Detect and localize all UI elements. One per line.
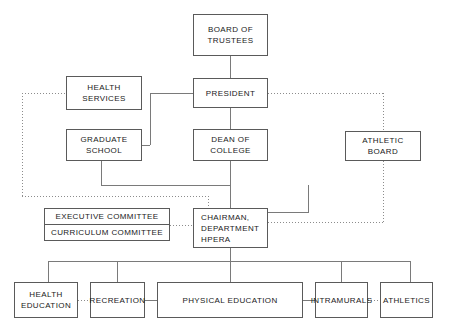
node-dean-of-college-line1: DEAN OF: [211, 134, 249, 145]
connector-drop-physical-education: [230, 261, 231, 282]
dotted-committees-chairman: [170, 225, 193, 226]
node-physical-education[interactable]: PHYSICAL EDUCATION: [157, 282, 303, 318]
node-physical-education-line1: PHYSICAL EDUCATION: [182, 295, 277, 306]
node-health-education-line2: EDUCATION: [21, 300, 71, 311]
node-intramurals-line1: INTRAMURALS: [311, 295, 373, 306]
node-curriculum-committee-label: CURRICULUM COMMITTEE: [51, 228, 163, 237]
node-board-of-trustees[interactable]: BOARD OF TRUSTEES: [193, 14, 268, 56]
node-president[interactable]: PRESIDENT: [193, 78, 268, 108]
node-athletics-line1: ATHLETICS: [383, 295, 430, 306]
connector-chairman-down: [230, 248, 231, 261]
connector-drop-intramurals: [341, 261, 342, 282]
node-board-of-trustees-line1: BOARD OF: [208, 24, 253, 35]
node-athletic-board-line1: ATHLETIC: [362, 135, 403, 146]
connector-president-dean: [230, 108, 231, 129]
dotted-health-services-left: [22, 93, 66, 94]
node-executive-committee[interactable]: EXECUTIVE COMMITTEE: [45, 209, 169, 224]
dotted-rail-into-chairman: [208, 196, 209, 208]
node-athletics[interactable]: ATHLETICS: [380, 282, 433, 318]
committee-group: EXECUTIVE COMMITTEE CURRICULUM COMMITTEE: [44, 208, 170, 241]
node-president-line1: PRESIDENT: [206, 88, 255, 99]
node-curriculum-committee[interactable]: CURRICULUM COMMITTEE: [45, 224, 169, 240]
dotted-athletic-to-chairman: [268, 222, 383, 223]
connector-drop-athletics: [410, 261, 411, 282]
dotted-athletic-drop-bottom: [383, 161, 384, 222]
dotted-health-education-recreation: [78, 300, 90, 301]
connector-president-health-services: [150, 93, 193, 94]
dotted-president-athletic: [268, 93, 383, 94]
node-health-services-line1: HEALTH: [87, 82, 120, 93]
connector-graduate-school-to-spine: [101, 185, 230, 186]
dotted-athletic-drop-top: [383, 93, 384, 131]
connector-chairman-right-riser: [308, 185, 309, 212]
connector-trustees-president: [230, 56, 231, 78]
node-health-services-line2: SERVICES: [82, 93, 126, 104]
node-recreation-line1: RECREATION: [90, 295, 146, 306]
node-board-of-trustees-line2: TRUSTEES: [208, 35, 254, 46]
connector-drop-health-education: [48, 261, 49, 282]
node-intramurals[interactable]: INTRAMURALS: [315, 282, 368, 318]
org-chart: BOARD OF TRUSTEES PRESIDENT HEALTH SERVI…: [0, 0, 462, 336]
node-dean-of-college-line2: COLLEGE: [210, 145, 251, 156]
node-graduate-school-line1: GRADUATE: [80, 134, 127, 145]
node-dean-of-college[interactable]: DEAN OF COLLEGE: [193, 129, 268, 161]
node-chairman-hpera[interactable]: CHAIRMAN, DEPARTMENT HPERA: [193, 208, 268, 248]
connector-drop-recreation: [117, 261, 118, 282]
node-chairman-hpera-line1: CHAIRMAN,: [201, 212, 250, 223]
connector-branch-graduate-school-seg: [142, 145, 150, 146]
node-recreation[interactable]: RECREATION: [90, 282, 145, 318]
node-chairman-hpera-line3: HPERA: [201, 234, 231, 245]
node-health-education[interactable]: HEALTH EDUCATION: [14, 282, 78, 318]
connector-chairman-right-bus: [268, 212, 309, 213]
dotted-left-rail: [22, 93, 23, 196]
connector-bottom-bus: [48, 261, 410, 262]
connector-dean-chairman: [230, 161, 231, 208]
connector-recreation-physical-education: [145, 300, 157, 301]
dotted-bottom-rail: [22, 196, 208, 197]
connector-president-branch-vertical: [150, 93, 151, 145]
node-executive-committee-label: EXECUTIVE COMMITTEE: [55, 212, 158, 221]
node-chairman-hpera-line2: DEPARTMENT: [201, 223, 259, 234]
node-health-services[interactable]: HEALTH SERVICES: [66, 76, 142, 110]
node-athletic-board[interactable]: ATHLETIC BOARD: [345, 131, 421, 161]
node-graduate-school-line2: SCHOOL: [86, 145, 122, 156]
connector-graduate-school-drop: [101, 161, 102, 185]
node-health-education-line1: HEALTH: [29, 289, 62, 300]
node-graduate-school[interactable]: GRADUATE SCHOOL: [66, 129, 142, 161]
node-athletic-board-line2: BOARD: [368, 146, 398, 157]
